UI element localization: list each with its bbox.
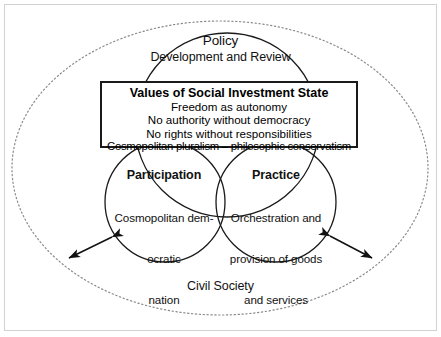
participation-circle-title: Participation bbox=[105, 168, 223, 183]
practice-body-line: and services bbox=[213, 293, 339, 307]
values-box-line: No authority without democracy bbox=[102, 113, 356, 126]
participation-body-line: nation bbox=[100, 293, 228, 307]
civil-society-label: Civil Society bbox=[0, 279, 441, 294]
practice-body-line: provision of goods bbox=[213, 252, 339, 266]
values-box-content: Values of Social Investment State Freedo… bbox=[102, 86, 356, 153]
values-box-line: Freedom as autonomy bbox=[102, 100, 356, 113]
values-box-title: Values of Social Investment State bbox=[102, 86, 356, 100]
venn-diagram-figure: Policy Development and Review Values of … bbox=[0, 0, 441, 337]
practice-body-line: Orchestration and bbox=[213, 211, 339, 225]
participation-body-line: ocratic bbox=[100, 252, 228, 266]
practice-circle-title: Practice bbox=[217, 168, 335, 183]
values-box-line: No rights without responsibilities bbox=[102, 127, 356, 140]
values-box-line: Cosmopolitan pluralism – philosophic con… bbox=[102, 140, 356, 153]
policy-circle-body: Development and Review bbox=[0, 50, 441, 65]
participation-circle-body: Cosmopolitan dem- ocratic nation bbox=[100, 184, 228, 334]
policy-circle-title: Policy bbox=[0, 33, 441, 49]
values-box: Values of Social Investment State Freedo… bbox=[100, 81, 358, 148]
participation-body-line: Cosmopolitan dem- bbox=[100, 211, 228, 225]
values-box-lines: Freedom as autonomy No authority without… bbox=[102, 100, 356, 152]
practice-circle-body: Orchestration and provision of goods and… bbox=[213, 184, 339, 334]
